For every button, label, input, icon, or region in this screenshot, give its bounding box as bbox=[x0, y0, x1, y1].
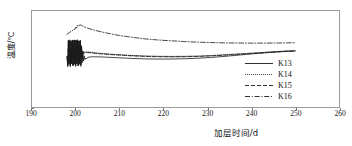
x-tick-mark bbox=[296, 108, 297, 111]
legend-swatch-k14 bbox=[244, 70, 274, 79]
x-tick-label: 250 bbox=[290, 110, 301, 118]
legend-label: K16 bbox=[278, 93, 292, 101]
legend-swatch-k15 bbox=[244, 81, 274, 90]
x-tick-mark bbox=[31, 108, 32, 111]
legend-item-k16: K16 bbox=[244, 91, 324, 102]
x-tick-label: 240 bbox=[246, 110, 257, 118]
legend-label: K14 bbox=[278, 71, 292, 79]
x-tick-mark bbox=[163, 108, 164, 111]
x-tick-label: 230 bbox=[202, 110, 213, 118]
x-axis-label: 加层时间/d bbox=[0, 126, 352, 138]
legend-label: K15 bbox=[278, 82, 292, 90]
chart-figure: 温度/℃ 024681012141618 1902002102202302402… bbox=[0, 0, 352, 146]
x-tick-label: 260 bbox=[334, 110, 345, 118]
x-tick-label: 210 bbox=[114, 110, 125, 118]
x-tick-mark bbox=[252, 108, 253, 111]
series-line-k16 bbox=[67, 25, 295, 43]
legend-item-k14: K14 bbox=[244, 69, 324, 80]
y-axis-label: 温度/℃ bbox=[5, 20, 16, 72]
x-tick-mark bbox=[75, 108, 76, 111]
x-tick-label: 200 bbox=[70, 110, 81, 118]
x-tick-mark bbox=[340, 108, 341, 111]
legend-swatch-k16 bbox=[244, 92, 274, 101]
x-tick-mark bbox=[208, 108, 209, 111]
x-tick-mark bbox=[119, 108, 120, 111]
x-tick-label: 220 bbox=[158, 110, 169, 118]
x-tick-label: 190 bbox=[25, 110, 36, 118]
legend-label: K13 bbox=[278, 60, 292, 68]
legend-swatch-k13 bbox=[244, 59, 274, 68]
chart-legend: K13K14K15K16 bbox=[240, 55, 328, 105]
legend-item-k15: K15 bbox=[244, 80, 324, 91]
legend-item-k13: K13 bbox=[244, 58, 324, 69]
